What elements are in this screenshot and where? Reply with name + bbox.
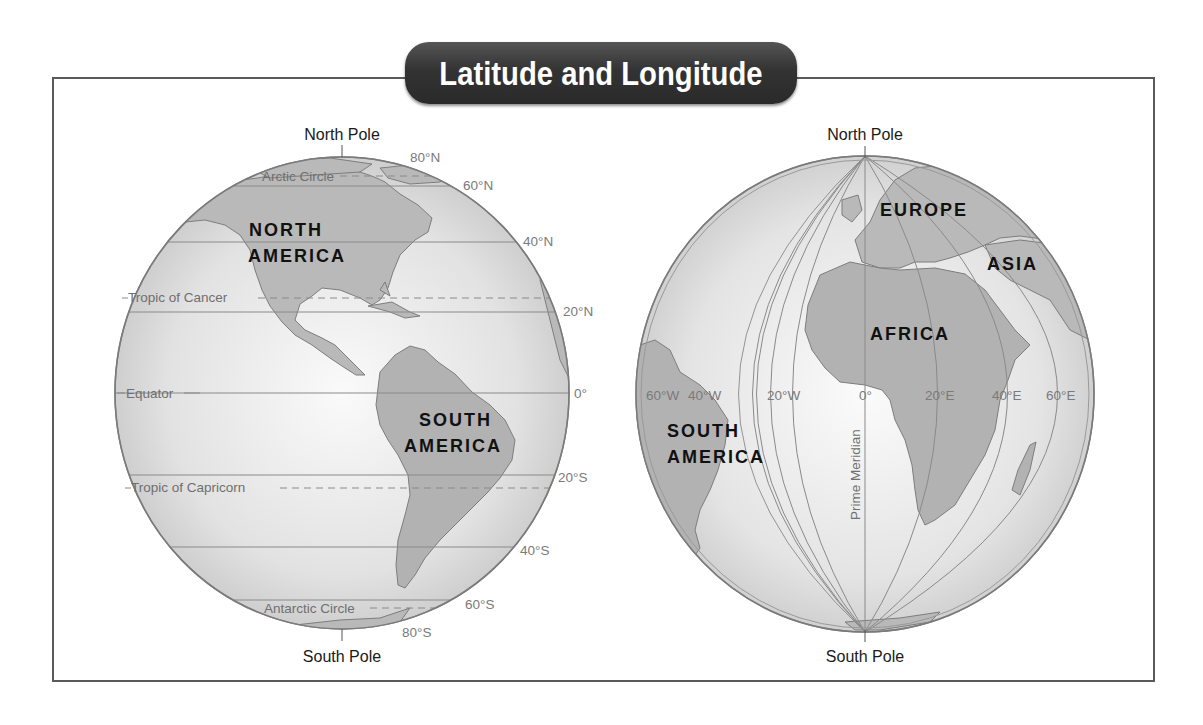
label-south-america-line1: SOUTH <box>419 410 492 430</box>
lon-label-20w: 20°W <box>767 388 800 403</box>
prime-meridian-label: Prime Meridian <box>848 429 863 520</box>
label-north-america-line2: AMERICA <box>248 246 346 266</box>
antarctic-circle-label: Antarctic Circle <box>264 601 355 616</box>
lat-label-20s: 20°S <box>558 470 587 485</box>
lat-label-40s: 40°S <box>520 543 549 558</box>
label-north-america-line1: NORTH <box>249 220 323 240</box>
left-south-pole-label: South Pole <box>303 648 381 665</box>
lon-label-0: 0° <box>859 388 872 403</box>
tropic-of-cancer-label: Tropic of Cancer <box>128 290 228 305</box>
globes-figure: North Pole South Pole 80°N 60°N 40°N 20°… <box>0 0 1203 725</box>
lat-label-80n: 80°N <box>410 150 440 165</box>
right-north-pole-label: North Pole <box>827 126 903 143</box>
left-north-pole-label: North Pole <box>304 126 380 143</box>
label-asia: ASIA <box>987 254 1038 274</box>
lat-label-60s: 60°S <box>465 597 494 612</box>
lat-label-0: 0° <box>574 386 587 401</box>
arctic-circle-label: Arctic Circle <box>262 169 334 184</box>
equator-label: Equator <box>126 386 174 401</box>
label-south-america-line2: AMERICA <box>404 436 502 456</box>
lat-label-80s: 80°S <box>402 625 431 640</box>
label-south-america-right-line1: SOUTH <box>667 421 740 441</box>
lon-label-60w: 60°W <box>646 388 679 403</box>
lat-label-60n: 60°N <box>463 178 493 193</box>
lat-label-20n: 20°N <box>563 304 593 319</box>
label-south-america-right-line2: AMERICA <box>667 447 765 467</box>
lon-label-60e: 60°E <box>1046 388 1075 403</box>
lon-label-40e: 40°E <box>992 388 1021 403</box>
label-africa: AFRICA <box>870 324 950 344</box>
lat-label-40n: 40°N <box>523 234 553 249</box>
right-globe: North Pole South Pole Prime Meridian 60°… <box>632 126 1094 665</box>
label-europe: EUROPE <box>880 200 968 220</box>
left-globe: North Pole South Pole 80°N 60°N 40°N 20°… <box>100 126 600 665</box>
lon-label-40w: 40°W <box>688 388 721 403</box>
tropic-of-capricorn-label: Tropic of Capricorn <box>131 480 245 495</box>
right-south-pole-label: South Pole <box>826 648 904 665</box>
lon-label-20e: 20°E <box>925 388 954 403</box>
